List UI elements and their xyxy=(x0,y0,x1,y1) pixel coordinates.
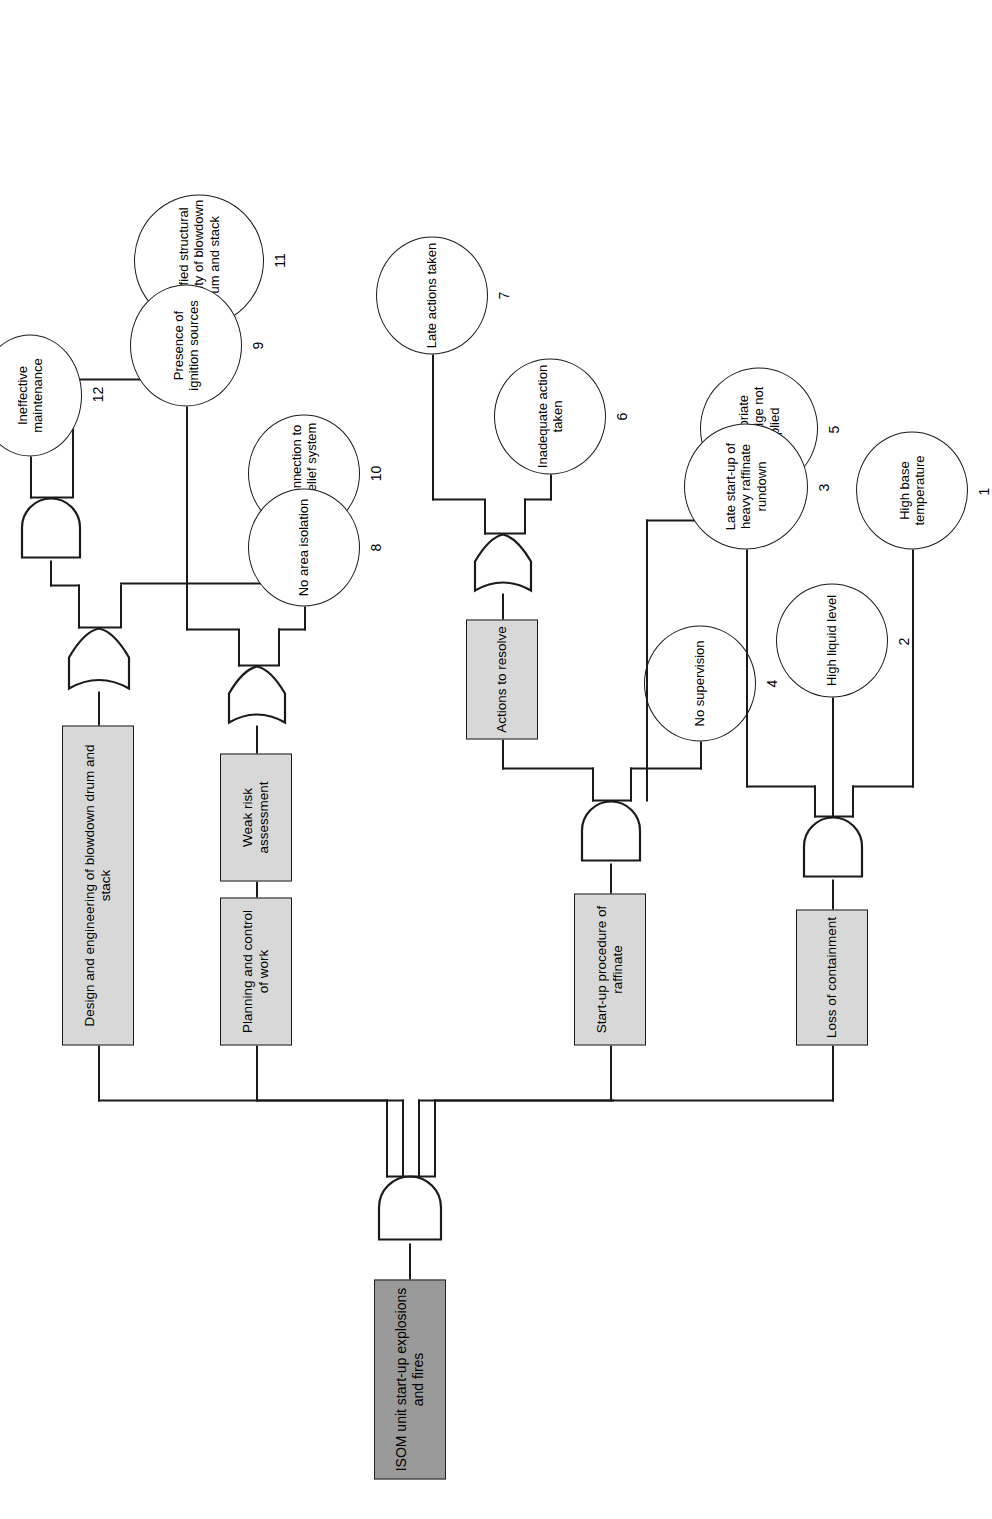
branch-box-design-engineering[interactable]: Design and engineering of blowdown drum … xyxy=(62,725,134,1045)
basic-event-number-9: 9 xyxy=(250,327,266,363)
connector xyxy=(98,691,100,725)
connector xyxy=(630,767,632,801)
connector xyxy=(502,767,594,769)
connector xyxy=(386,1175,434,1177)
connector xyxy=(912,549,914,787)
top-event-box[interactable]: ISOM unit start-up explosions and fires xyxy=(374,1279,446,1479)
connector xyxy=(484,498,486,534)
basic-event-number-6: 6 xyxy=(614,398,630,434)
basic-event-number-5: 5 xyxy=(826,411,842,447)
connector xyxy=(30,456,32,498)
branch-box-startup-procedure[interactable]: Start-up procedure of raffinate xyxy=(574,893,646,1045)
connector xyxy=(186,406,188,630)
and-gate-startup-procedure xyxy=(580,801,642,863)
basic-event-number-10: 10 xyxy=(368,455,384,491)
or-gate-weak-risk-assessment xyxy=(226,663,288,725)
connector xyxy=(238,628,240,666)
connector xyxy=(278,628,306,630)
connector xyxy=(646,519,648,801)
connector xyxy=(434,1099,436,1177)
and-gate-blowdown-sub xyxy=(20,498,82,560)
basic-event-2[interactable]: High liquid level xyxy=(776,583,888,697)
connector xyxy=(434,1099,834,1101)
basic-event-9[interactable]: Presence of ignition sources xyxy=(130,284,242,406)
connector xyxy=(610,863,612,893)
connector xyxy=(814,815,854,817)
branch-box-weak-risk-assessment[interactable]: Weak risk assessment xyxy=(220,753,292,881)
connector xyxy=(186,628,238,630)
connector xyxy=(832,879,834,909)
connector xyxy=(746,785,816,787)
basic-event-3[interactable]: Late start-up of heavy raffinate rundown xyxy=(684,423,808,549)
connector xyxy=(278,628,280,666)
basic-event-4[interactable]: No supervision xyxy=(644,625,756,741)
basic-event-6[interactable]: Inadequate action taken xyxy=(494,358,606,474)
basic-event-number-8: 8 xyxy=(368,529,384,565)
basic-event-number-12: 12 xyxy=(90,376,106,412)
basic-event-12[interactable]: Ineffective maintenance xyxy=(0,334,82,456)
basic-event-8[interactable]: No area isolation xyxy=(248,488,360,606)
connector xyxy=(409,1243,411,1279)
connector xyxy=(630,767,702,769)
connector xyxy=(418,1099,420,1177)
connector xyxy=(832,1045,834,1101)
connector xyxy=(78,584,80,628)
connector xyxy=(78,626,120,628)
connector xyxy=(700,741,702,769)
basic-event-number-1: 1 xyxy=(976,473,992,509)
and-gate-top xyxy=(377,1177,443,1243)
connector xyxy=(50,584,80,586)
connector xyxy=(386,1099,388,1177)
basic-event-number-2: 2 xyxy=(896,623,912,659)
connector xyxy=(502,739,504,769)
connector xyxy=(256,881,258,897)
connector xyxy=(256,1045,258,1101)
connector xyxy=(610,1045,612,1101)
basic-event-number-11: 11 xyxy=(272,242,288,278)
connector xyxy=(98,1045,100,1101)
connector xyxy=(524,498,552,500)
connector xyxy=(502,593,504,619)
basic-event-number-4: 4 xyxy=(764,665,780,701)
basic-event-1[interactable]: High base temperature xyxy=(856,431,968,549)
connector xyxy=(238,664,278,666)
connector xyxy=(814,785,816,817)
connector xyxy=(592,767,594,801)
or-gate-design-engineering xyxy=(66,625,132,691)
connector xyxy=(852,785,854,817)
branch-box-planning-control[interactable]: Planning and control of work xyxy=(220,897,292,1045)
branch-box-loss-of-containment[interactable]: Loss of containment xyxy=(796,909,868,1045)
connector xyxy=(432,354,434,500)
basic-event-number-3: 3 xyxy=(816,469,832,505)
connector xyxy=(484,532,524,534)
connector xyxy=(432,498,484,500)
connector xyxy=(832,697,834,817)
connector xyxy=(30,496,72,498)
connector xyxy=(120,584,122,628)
connector xyxy=(256,725,258,753)
and-gate-loss-of-containment xyxy=(802,817,864,879)
connector xyxy=(50,560,52,586)
connector xyxy=(550,474,552,500)
or-gate-actions-to-resolve xyxy=(472,531,534,593)
basic-event-number-7: 7 xyxy=(496,277,512,313)
connector xyxy=(402,1099,404,1177)
basic-event-7[interactable]: Late actions taken xyxy=(376,236,488,354)
connector xyxy=(592,799,632,801)
connector xyxy=(524,498,526,534)
branch-box-actions-to-resolve[interactable]: Actions to resolve xyxy=(466,619,538,739)
connector xyxy=(852,785,914,787)
connector xyxy=(256,1099,404,1101)
connector xyxy=(304,606,306,630)
connector xyxy=(746,549,748,787)
